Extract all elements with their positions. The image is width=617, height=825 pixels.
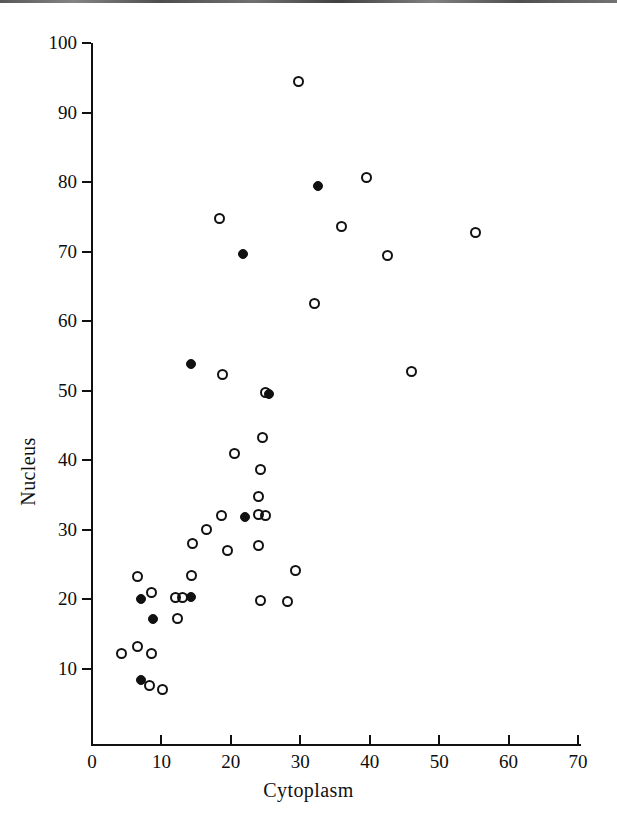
data-point-open-circles-11 xyxy=(229,448,240,459)
x-axis-title: Cytoplasm xyxy=(0,779,617,802)
data-point-filled-circles-1 xyxy=(238,249,248,259)
data-point-open-circles-30 xyxy=(132,641,143,652)
data-point-open-circles-28 xyxy=(282,596,293,607)
data-point-open-circles-12 xyxy=(255,464,266,475)
data-point-open-circles-24 xyxy=(146,587,157,598)
data-point-open-circles-18 xyxy=(187,538,198,549)
data-point-open-circles-6 xyxy=(309,298,320,309)
data-point-open-circles-1 xyxy=(361,172,372,183)
data-point-open-circles-34 xyxy=(157,684,168,695)
data-point-filled-circles-6 xyxy=(136,594,146,604)
data-point-open-circles-3 xyxy=(336,221,347,232)
data-point-open-circles-8 xyxy=(217,369,228,380)
data-point-open-circles-2 xyxy=(214,213,225,224)
data-point-open-circles-13 xyxy=(253,491,264,502)
scatter-plot-figure: 102030405060708090100 010203040506070 Cy… xyxy=(0,0,617,825)
data-point-filled-circles-5 xyxy=(186,592,196,602)
data-point-open-circles-23 xyxy=(186,570,197,581)
data-point-open-circles-5 xyxy=(382,250,393,261)
data-point-open-circles-31 xyxy=(116,648,127,659)
data-point-filled-circles-3 xyxy=(264,389,274,399)
data-point-open-circles-19 xyxy=(222,545,233,556)
data-point-open-circles-27 xyxy=(255,595,266,606)
data-point-filled-circles-2 xyxy=(186,359,196,369)
data-point-open-circles-10 xyxy=(257,432,268,443)
data-point-filled-circles-0 xyxy=(313,181,323,191)
data-point-open-circles-22 xyxy=(132,571,143,582)
data-point-open-circles-4 xyxy=(470,227,481,238)
data-point-open-circles-17 xyxy=(201,524,212,535)
data-point-open-circles-7 xyxy=(406,366,417,377)
y-axis-title: Nucleus xyxy=(17,382,40,562)
data-point-filled-circles-7 xyxy=(148,614,158,624)
data-point-open-circles-14 xyxy=(216,510,227,521)
data-point-open-circles-20 xyxy=(253,540,264,551)
data-point-open-circles-32 xyxy=(146,648,157,659)
data-point-filled-circles-4 xyxy=(240,512,250,522)
data-points-layer xyxy=(0,0,617,825)
data-point-open-circles-21 xyxy=(290,565,301,576)
data-point-open-circles-33 xyxy=(144,680,155,691)
data-point-open-circles-0 xyxy=(293,76,304,87)
data-point-open-circles-29 xyxy=(172,613,183,624)
data-point-filled-circles-8 xyxy=(136,675,146,685)
